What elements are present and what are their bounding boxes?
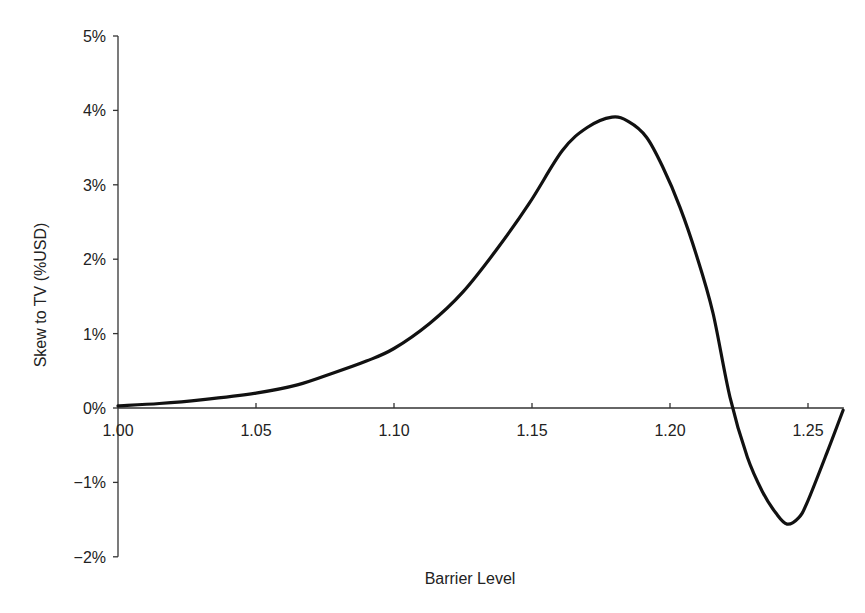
y-tick-label: −2% <box>74 549 106 566</box>
y-tick-label: 2% <box>83 251 106 268</box>
y-axis: −2%−1%0%1%2%3%4%5% <box>74 28 118 566</box>
x-tick-label: 1.15 <box>516 422 547 439</box>
x-axis-title: Barrier Level <box>425 570 516 587</box>
y-tick-label: −1% <box>74 474 106 491</box>
series-line <box>118 117 843 524</box>
x-tick-label: 1.20 <box>654 422 685 439</box>
x-tick-label: 1.25 <box>792 422 823 439</box>
y-tick-label: 4% <box>83 102 106 119</box>
y-tick-label: 3% <box>83 177 106 194</box>
x-tick-label: 1.00 <box>102 422 133 439</box>
x-tick-label: 1.10 <box>378 422 409 439</box>
y-tick-label: 1% <box>83 326 106 343</box>
y-tick-label: 5% <box>83 28 106 45</box>
y-axis-title: Skew to TV (%USD) <box>32 223 49 368</box>
y-tick-label: 0% <box>83 400 106 417</box>
line-chart: −2%−1%0%1%2%3%4%5% 1.001.051.101.151.201… <box>0 0 865 613</box>
x-tick-label: 1.05 <box>240 422 271 439</box>
